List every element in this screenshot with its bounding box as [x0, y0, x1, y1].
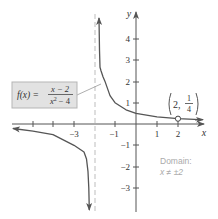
domain-annotation: Domain: x ≠ ±2 — [159, 156, 192, 177]
curve-right-branch — [99, 18, 200, 120]
svg-text:x2 − 4: x2 − 4 — [49, 96, 71, 106]
x-tick-label-neg1: −1 — [109, 129, 119, 139]
y-tick-label-4: 4 — [126, 34, 131, 44]
y-tick-label-neg3: −3 — [120, 183, 130, 193]
y-tick-label-neg1: −1 — [120, 140, 130, 150]
x-tick-label-2: 2 — [176, 129, 181, 139]
y-tick-label-3: 3 — [126, 55, 131, 65]
svg-text:x ≠ ±2: x ≠ ±2 — [159, 167, 183, 177]
hole-label: 2, 1 4 — [169, 93, 198, 115]
label-leader-line — [77, 84, 101, 95]
curve-left-arrow — [13, 129, 33, 132]
x-axis-label: x — [201, 127, 207, 138]
svg-text:f(x) =: f(x) = — [17, 90, 39, 101]
curve-left-branch — [33, 131, 89, 210]
svg-text:Domain:: Domain: — [160, 156, 192, 166]
function-graph: −3 −1 1 2 x 4 3 2 1 −1 −2 −3 y 2, 1 4 f(… — [0, 0, 218, 219]
y-axis-label: y — [126, 8, 132, 19]
y-tick-label-2: 2 — [126, 77, 131, 87]
svg-text:4: 4 — [187, 105, 191, 114]
x-tick-label-neg3: −3 — [69, 129, 79, 139]
y-tick-label-neg2: −2 — [120, 162, 130, 172]
y-tick-label-1: 1 — [126, 98, 131, 108]
svg-text:1: 1 — [187, 94, 191, 103]
x-tick-label-1: 1 — [155, 129, 160, 139]
hole-point — [175, 116, 180, 121]
svg-text:x − 2: x − 2 — [50, 84, 70, 94]
svg-text:2,: 2, — [173, 99, 181, 110]
